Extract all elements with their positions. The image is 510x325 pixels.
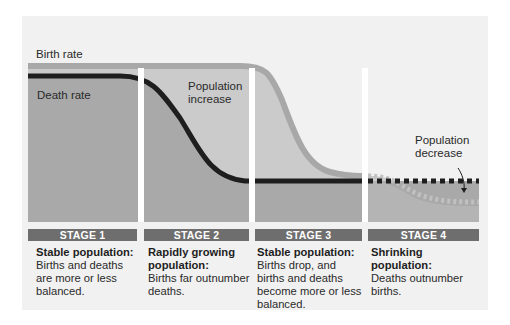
- column-gap: [249, 68, 255, 222]
- stage-2-description: Rapidly growing population: Births far o…: [148, 246, 252, 298]
- column-gap: [362, 68, 368, 222]
- stage-2-label: STAGE 2: [144, 229, 249, 241]
- death-rate-label: Death rate: [37, 89, 91, 102]
- population-increase-label: Population increase: [188, 80, 242, 106]
- stage-3-label: STAGE 3: [255, 229, 362, 241]
- column-gap: [138, 68, 144, 222]
- population-decrease-label: Population decrease: [415, 134, 469, 160]
- stage-4-label: STAGE 4: [368, 229, 479, 241]
- stage-3-description: Stable population: Births drop, and birt…: [257, 246, 363, 311]
- stage-1-description: Stable population: Births and deaths are…: [36, 246, 140, 298]
- stage-1-label: STAGE 1: [28, 229, 137, 241]
- stage-4-description: Shrinking population: Deaths outnumber b…: [371, 246, 483, 298]
- birth-rate-label: Birth rate: [36, 48, 83, 61]
